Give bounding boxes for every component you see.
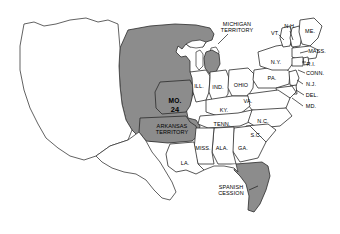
map-label-tennessee: TENN. (214, 121, 231, 127)
map-label-louisiana: LA. (181, 160, 190, 166)
state-connecticut[interactable] (292, 57, 303, 66)
state-new-jersey[interactable] (289, 70, 299, 86)
map-label-maine: ME. (305, 28, 315, 34)
map-label-new-hampshire: N.H. (284, 23, 295, 29)
maryland-leader-line (292, 98, 303, 106)
michigan-territory-leader-line (218, 34, 228, 44)
map-label-mississippi: MISS. (195, 145, 210, 151)
map-label-massachusetts: MASS. (308, 48, 326, 54)
map-label-illinois: ILL. (194, 83, 204, 89)
map-label-ohio: OHIO (234, 82, 248, 88)
map-label-indiana: IND. (212, 84, 223, 90)
map-label-new-york: N.Y. (271, 59, 281, 65)
map-label-south-carolina: S.C. (250, 132, 261, 138)
map-label-connecticut: CONN. (306, 70, 324, 76)
region-western-unorganized[interactable] (20, 18, 132, 160)
map-label-delaware: DEL. (306, 92, 319, 98)
map-label-michigan-territory: MICHIGAN TERRITORY (221, 21, 253, 33)
gulf-coastline (204, 164, 238, 172)
historical-us-map: MICHIGAN TERRITORYVT.N.H.ME.MASS.N.Y.R.I… (0, 0, 340, 234)
map-label-vermont: VT. (271, 30, 279, 36)
map-label-pennsylvania: PA. (268, 75, 277, 81)
map-label-kentucky: KY. (220, 107, 228, 113)
map-label-missouri-statehood-number: 24 (171, 107, 179, 114)
map-label-new-jersey: N.J. (306, 81, 316, 87)
great-lakes-michigan (196, 50, 203, 70)
map-label-maryland: MD. (306, 103, 316, 109)
map-label-arkansas-territory: ARKANSAS TERRITORY (156, 123, 188, 135)
map-label-spanish-cession: SPANISH CESSION (218, 184, 243, 196)
map-label-virginia: VA. (244, 98, 253, 104)
map-label-north-carolina: N.C. (257, 118, 268, 124)
connecticut-leader-line (298, 70, 305, 73)
map-label-alabama: ALA. (216, 145, 228, 151)
state-new-york[interactable] (258, 44, 296, 70)
map-label-georgia: GA. (238, 145, 248, 151)
map-label-missouri: MO. (169, 97, 182, 104)
map-label-rhode-island: R.I. (307, 61, 316, 67)
map-canvas (0, 0, 340, 234)
